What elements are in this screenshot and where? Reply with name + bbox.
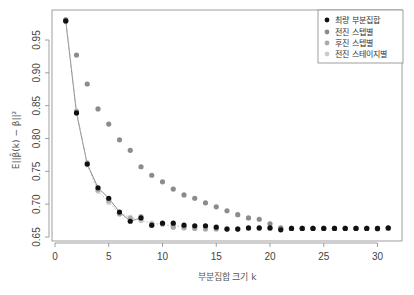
best-subset-point [321,226,326,231]
x-tick-label: 20 [264,251,276,262]
best-subset-point [267,225,272,230]
y-axis: 0.650.700.750.800.850.900.95 [31,30,49,247]
legend-label: 최량 부분집합 [335,15,381,25]
best-subset-point [74,110,79,115]
best-subset-point [224,227,229,232]
best-subset-point [138,215,143,220]
legend-marker-icon [325,18,330,23]
y-tick-label: 0.90 [31,63,42,83]
x-axis-title: 부분집합 크기 k [198,271,258,282]
best-subset-point [203,223,208,228]
forward-stepwise-point [160,179,165,184]
best-subset-point [117,209,122,214]
best-subset-point [128,219,133,224]
best-subset-point [149,223,154,228]
forward-stepwise-point [224,208,229,213]
best-subset-point [171,221,176,226]
forward-stepwise-point [235,212,240,217]
y-axis-title: E||β̂(k) − β||² [9,110,21,169]
best-subset-point [278,227,283,232]
forward-stepwise-point [171,186,176,191]
x-tick-label: 15 [211,251,223,262]
forward-stepwise-point [106,121,111,126]
y-tick-label: 0.70 [31,194,42,214]
x-tick-label: 25 [318,251,330,262]
x-tick-label: 0 [52,251,58,262]
forward-stepwise-point [74,53,79,58]
best-subset-point [246,225,251,230]
x-tick-label: 10 [157,251,169,262]
y-tick-label: 0.80 [31,128,42,148]
legend-marker-icon [325,41,330,46]
y-tick-label: 0.85 [31,95,42,115]
x-axis: 051015202530 [52,243,383,262]
forward-stepwise-point [85,81,90,86]
best-subset-point [214,225,219,230]
best-subset-fit-line [66,21,141,221]
best-subset-point [63,18,68,23]
best-subset-point [192,223,197,228]
forward-stepwise-point [117,137,122,142]
best-subset-point [85,162,90,167]
stagewise-fit-line [66,20,184,227]
best-subset-point [300,226,305,231]
best-subset-point [353,226,358,231]
forward-stepwise-point [138,164,143,169]
best-subset-point [375,226,380,231]
best-subset-point [257,225,262,230]
forward-stepwise-point [149,173,154,178]
chart-canvas: 051015202530 0.650.700.750.800.850.900.9… [0,0,414,295]
best-subset-point [310,226,315,231]
best-subset-point [332,226,337,231]
forward-stepwise-point [214,204,219,209]
legend-marker-icon [325,52,330,57]
best-subset-point [160,221,165,226]
forward-stepwise-point [95,106,100,111]
forward-stepwise-point [192,196,197,201]
forward-stepwise-point [257,217,262,222]
fit-lines [66,20,184,227]
best-subset-point [343,226,348,231]
best-subset-point [106,196,111,201]
x-tick-label: 30 [372,251,384,262]
y-tick-label: 0.95 [31,30,42,50]
y-tick-label: 0.75 [31,161,42,181]
legend-label: 전진 스텝별 [335,27,373,37]
legend-label: 전진 스테이지별 [335,49,387,59]
best-subset-point [289,226,294,231]
best-subset-point [235,227,240,232]
x-tick-label: 5 [106,251,112,262]
forward-stepwise-point [128,148,133,153]
best-subset-point [95,185,100,190]
best-subset-point [181,223,186,228]
legend: 최량 부분집합 전진 스텝별 후진 스텝별 전진 스테이지별 [318,10,403,63]
best-subset-point [364,226,369,231]
y-tick-label: 0.65 [31,227,42,247]
legend-marker-icon [325,30,330,35]
legend-label: 후진 스텝별 [335,38,373,48]
forward-stepwise-point [246,215,251,220]
forward-stepwise-point [203,200,208,205]
forward-stepwise-point [181,192,186,197]
best-subset-point [386,225,391,230]
